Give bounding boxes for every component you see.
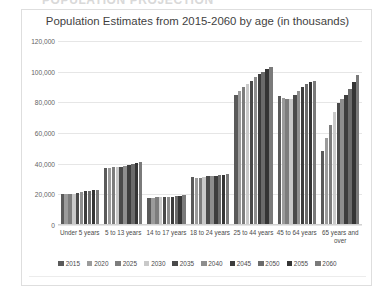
bar [72, 194, 75, 225]
bar [250, 81, 253, 225]
legend-swatch-icon [258, 261, 264, 267]
legend-item[interactable]: 2030 [144, 260, 166, 267]
bar [116, 167, 119, 225]
bar [337, 103, 340, 225]
bar [119, 167, 122, 225]
bar [234, 95, 237, 225]
legend-label: 2040 [208, 260, 222, 267]
bar [76, 193, 79, 225]
bar [297, 91, 300, 225]
legend-item[interactable]: 2025 [115, 260, 137, 267]
bar [127, 165, 130, 225]
x-axis-category-labels: Under 5 years5 to 13 years14 to 17 years… [58, 229, 362, 255]
legend-item[interactable]: 2015 [58, 260, 80, 267]
legend-item[interactable]: 2020 [87, 260, 109, 267]
legend-swatch-icon [58, 261, 64, 267]
bar [151, 198, 154, 225]
bar [147, 198, 150, 225]
legend-item[interactable]: 2040 [201, 260, 223, 267]
bar [167, 197, 170, 225]
legend-swatch-icon [115, 261, 121, 267]
legend-item[interactable]: 2035 [172, 260, 194, 267]
bar [348, 89, 351, 225]
bar [135, 163, 138, 225]
bar [191, 177, 194, 225]
bar [80, 192, 83, 225]
bar [159, 197, 162, 225]
bar [139, 162, 142, 225]
x-axis-category-label: 18 to 24 years [188, 229, 231, 255]
bar [269, 67, 272, 225]
bar [352, 82, 355, 225]
bar [163, 197, 166, 225]
legend-item[interactable]: 2055 [287, 260, 309, 267]
bar [104, 168, 107, 225]
legend-swatch-icon [230, 261, 236, 267]
y-axis-tick-label: 60,000 [35, 130, 55, 137]
bar [108, 168, 111, 226]
bar [68, 194, 71, 225]
bar [313, 81, 316, 225]
legend-item[interactable]: 2060 [315, 260, 337, 267]
bar-group [188, 41, 231, 225]
bar [155, 197, 158, 225]
legend-divider [29, 276, 366, 277]
legend-swatch-icon [172, 261, 178, 267]
x-axis-category-label: 25 to 44 years [232, 229, 275, 255]
bar [293, 95, 296, 225]
legend-swatch-icon [87, 261, 93, 267]
bar [278, 96, 281, 225]
legend-label: 2020 [94, 260, 108, 267]
y-axis-tick-label: 40,000 [35, 160, 55, 167]
legend-label: 2055 [294, 260, 308, 267]
y-axis-tick-label: 120,000 [31, 38, 55, 45]
plot-area [58, 41, 362, 225]
bar [265, 69, 268, 225]
bar [123, 166, 126, 225]
chart-title: Population Estimates from 2015-2060 by a… [22, 15, 373, 27]
bar [242, 87, 245, 225]
bar [214, 176, 217, 225]
bar [202, 177, 205, 225]
y-axis-tick-label: 0 [51, 222, 55, 229]
bar-group [58, 41, 101, 225]
y-axis-tick-label: 100,000 [31, 68, 55, 75]
legend-swatch-icon [201, 261, 207, 267]
gridline [58, 225, 362, 226]
x-axis-category-label: 5 to 13 years [101, 229, 144, 255]
bar [321, 151, 324, 225]
legend-swatch-icon [144, 261, 150, 267]
bar [254, 77, 257, 225]
bar [301, 87, 304, 225]
x-axis-line [58, 224, 362, 225]
bar [325, 138, 328, 225]
legend-swatch-icon [315, 261, 321, 267]
bar [61, 194, 64, 225]
bar [218, 175, 221, 225]
x-axis-category-label: 45 to 64 years [275, 229, 318, 255]
bar [64, 194, 67, 225]
bar [195, 178, 198, 225]
legend-label: 2015 [66, 260, 80, 267]
legend-label: 2050 [265, 260, 279, 267]
bar-group [232, 41, 275, 225]
bar [175, 196, 178, 225]
bar [344, 95, 347, 225]
bar [178, 196, 181, 225]
chart-card: Population Estimates from 2015-2060 by a… [21, 9, 372, 286]
bar [96, 190, 99, 225]
y-axis-tick-label: 80,000 [35, 99, 55, 106]
legend-item[interactable]: 2045 [230, 260, 252, 267]
bar [171, 197, 174, 225]
bar [309, 82, 312, 225]
bar-group [101, 41, 144, 225]
x-axis-category-label: 65 years and over [319, 229, 362, 255]
bar [289, 99, 292, 226]
bar [84, 191, 87, 225]
legend-label: 2060 [322, 260, 336, 267]
bar [226, 174, 229, 225]
x-axis-category-label: 14 to 17 years [145, 229, 188, 255]
y-axis-tick-label: 20,000 [35, 191, 55, 198]
bar [92, 190, 95, 225]
legend-item[interactable]: 2050 [258, 260, 280, 267]
